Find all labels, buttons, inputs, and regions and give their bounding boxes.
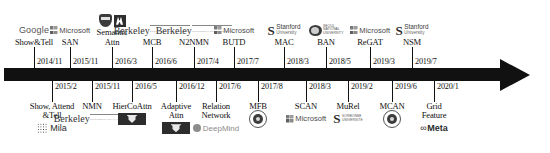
- snu-emblem-icon: [309, 25, 322, 36]
- entry-logos: [249, 111, 267, 126]
- axis-tick: [112, 47, 113, 68]
- axis-tick: [412, 47, 413, 68]
- deepmind-mark-icon: [193, 124, 201, 132]
- date-label: 2017/7: [237, 57, 259, 67]
- entry-logos: ∞Meta: [420, 121, 447, 136]
- date-label: 2015/11: [95, 82, 120, 92]
- date-label: 2018/3: [287, 57, 309, 67]
- research-timeline: 2014/112015/112016/32016/62017/42017/720…: [0, 0, 550, 153]
- axis-tick: [92, 81, 93, 102]
- axis-tick: [176, 81, 177, 102]
- date-label: 2018/5: [329, 57, 351, 67]
- axis-tick: [70, 47, 71, 68]
- axis-tick: [194, 47, 195, 68]
- axis-tick: [284, 47, 285, 68]
- timeline-entry: GridFeature∞Meta: [398, 102, 470, 153]
- microsoft-squares-icon: [286, 115, 294, 123]
- axis-tick: [392, 81, 393, 102]
- timeline-entry: SStanfordUniversityNSM: [376, 0, 448, 47]
- date-label: 2016/5: [135, 82, 157, 92]
- date-label: 2019/6: [395, 82, 417, 92]
- axis-tick: [348, 81, 349, 102]
- entry-logos: SStanfordUniversity: [396, 23, 429, 38]
- mila-dots-icon: [37, 123, 48, 134]
- date-label: 2018/3: [309, 82, 331, 92]
- date-label: 2017/4: [197, 57, 219, 67]
- date-label: 2015/11: [73, 57, 98, 67]
- entry-label: BAN: [317, 38, 335, 47]
- axis-tick: [132, 81, 133, 102]
- axis-tick: [34, 47, 35, 68]
- university-crest-icon: [99, 14, 112, 27]
- date-label: 2019/2: [351, 82, 373, 92]
- date-label: 2016/6: [155, 57, 177, 67]
- axis-tick: [258, 81, 259, 102]
- axis-tick: [434, 81, 435, 102]
- entry-label: NSM: [403, 38, 421, 47]
- date-label: 2015/2: [55, 82, 77, 92]
- meta-infinity-icon: ∞: [420, 123, 425, 133]
- axis-tick: [216, 81, 217, 102]
- meta-logo-icon: ∞Meta: [420, 123, 447, 133]
- entry-label: GridFeature: [422, 102, 447, 121]
- date-label: 2019/3: [373, 57, 395, 67]
- axis-tick: [370, 47, 371, 68]
- stanford-s-icon: S: [396, 25, 403, 36]
- axis-tick: [52, 81, 53, 102]
- entry-label: BUTD: [223, 38, 246, 47]
- microsoft-squares-icon: [50, 26, 58, 34]
- axis-tick: [152, 47, 153, 68]
- date-label: 2016/12: [179, 82, 204, 92]
- axis-tick: [234, 47, 235, 68]
- date-label: 2016/3: [115, 57, 137, 67]
- date-label: 2014/11: [37, 57, 62, 67]
- sorbonne-s-icon: S: [333, 113, 340, 124]
- university-seal-icon: [249, 110, 267, 128]
- stanford-s-icon: S: [268, 25, 275, 36]
- axis-tick: [326, 47, 327, 68]
- date-label: 2019/7: [415, 57, 437, 67]
- date-label: 2020/1: [437, 82, 459, 92]
- date-label: 2017/6: [219, 82, 241, 92]
- timeline-axis-bar: [4, 68, 504, 81]
- date-label: 2017/8: [261, 82, 283, 92]
- axis-tick: [306, 81, 307, 102]
- timeline-arrow-head: [500, 59, 530, 91]
- microsoft-squares-icon: [350, 26, 358, 34]
- stanford-logo-icon: SStanfordUniversity: [396, 24, 429, 36]
- microsoft-squares-icon: [214, 26, 222, 34]
